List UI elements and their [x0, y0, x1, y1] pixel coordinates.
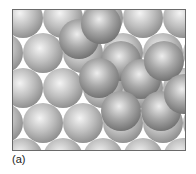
bottom-layer-sphere [183, 33, 185, 73]
bottom-layer-sphere [13, 33, 23, 73]
bottom-layer-sphere [123, 10, 163, 38]
sphere-packing-figure [12, 9, 186, 151]
figure-caption: (a) [12, 153, 25, 166]
top-layer-sphere [79, 58, 119, 98]
bottom-layer-sphere [13, 103, 23, 143]
top-layer-sphere [101, 91, 141, 131]
bottom-layer-sphere [23, 33, 63, 73]
bottom-layer-sphere [63, 103, 103, 143]
close-packed-spheres-diagram [13, 10, 185, 150]
bottom-layer-sphere [23, 103, 63, 143]
bottom-layer-sphere [13, 68, 43, 108]
bottom-layer-sphere [43, 68, 83, 108]
